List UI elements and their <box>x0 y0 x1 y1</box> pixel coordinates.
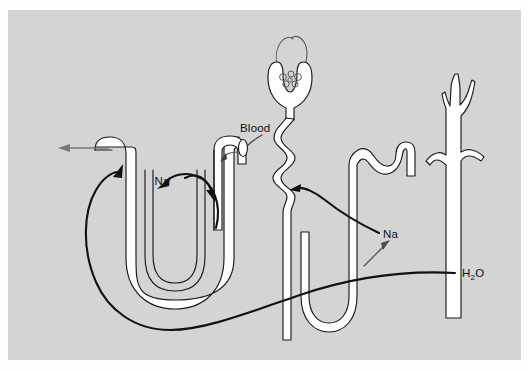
blood-vessel-cut-end <box>239 140 248 157</box>
nephron-diagram-canvas: Blood Na H2O Na <box>0 0 529 372</box>
h2o-label-o: O <box>475 267 484 279</box>
na-left-label: Na <box>154 175 170 187</box>
h2o-label-h: H <box>462 267 471 279</box>
na-right-label: Na <box>383 228 399 240</box>
blood-label: Blood <box>240 122 270 134</box>
nephron-diagram-figure: Blood Na H2O Na <box>0 0 529 372</box>
